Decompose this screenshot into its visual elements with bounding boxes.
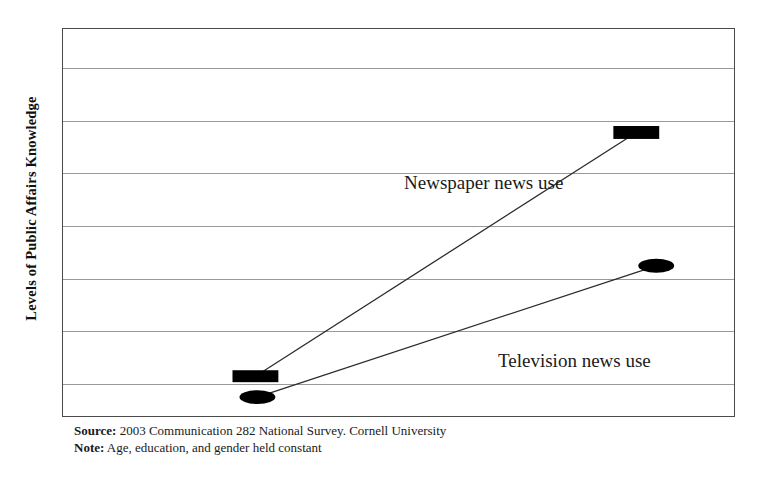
television-marker-low <box>239 390 275 404</box>
footnotes: Source: 2003 Communication 282 National … <box>74 422 734 456</box>
plot-area: Newspaper news use Television news use <box>62 28 735 417</box>
source-value: 2003 Communication 282 National Survey. … <box>116 423 446 438</box>
newspaper-series-line <box>255 132 636 376</box>
note-line: Note: Age, education, and gender held co… <box>74 439 734 456</box>
newspaper-marker-low <box>232 370 278 382</box>
source-line: Source: 2003 Communication 282 National … <box>74 422 734 439</box>
y-axis-title: Levels of Public Affairs Knowledge <box>0 0 62 417</box>
television-series-label: Television news use <box>498 350 651 372</box>
chart-figure: Levels of Public Affairs Knowledge Newsp… <box>0 0 763 479</box>
newspaper-series-label: Newspaper news use <box>404 172 563 194</box>
note-label: Note: <box>74 440 104 455</box>
note-value: Age, education, and gender held constant <box>104 440 321 455</box>
television-series-line <box>257 266 656 397</box>
source-label: Source: <box>74 423 116 438</box>
newspaper-marker-high <box>613 126 659 139</box>
television-marker-high <box>638 259 674 273</box>
y-axis-title-text: Levels of Public Affairs Knowledge <box>23 96 40 320</box>
